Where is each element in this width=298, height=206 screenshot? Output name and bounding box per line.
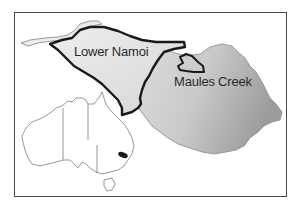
map-figure [0,0,298,206]
maules-creek-label: Maules Creek [174,74,252,89]
australia-inset-map [22,92,134,191]
maules-creek-region [138,44,282,154]
lower-namoi-label: Lower Namoi [74,44,148,59]
